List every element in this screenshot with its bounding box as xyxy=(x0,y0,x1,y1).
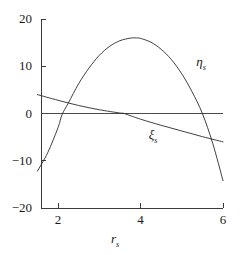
plot-canvas xyxy=(0,0,242,255)
axes-group xyxy=(41,19,223,208)
chart-figure: 20100−10−20 246 ηsξs rs xyxy=(0,0,242,255)
y-tick-label-0: 20 xyxy=(0,12,32,25)
y-tick-label-3: −10 xyxy=(0,154,32,167)
x-tick-label-2: 6 xyxy=(208,213,238,226)
y-tick-label-4: −20 xyxy=(0,201,32,214)
x-axis-title: rs xyxy=(111,232,119,249)
x-tick-label-0: 2 xyxy=(43,213,73,226)
x-axis-ticks xyxy=(58,203,223,208)
curve-label-subscript: s xyxy=(154,136,157,145)
x-axis-title-subscript: s xyxy=(116,240,119,249)
series-group xyxy=(37,38,223,181)
x-tick-label-1: 4 xyxy=(126,213,156,226)
curve-label-subscript: s xyxy=(203,63,206,72)
curve-label-xi-s: ξs xyxy=(149,128,158,145)
y-tick-label-2: 0 xyxy=(0,107,32,120)
curve-label-eta-s: ηs xyxy=(196,55,206,72)
curve-xi-s xyxy=(37,95,223,142)
y-tick-label-1: 10 xyxy=(0,59,32,72)
curve-eta-s xyxy=(37,38,223,181)
